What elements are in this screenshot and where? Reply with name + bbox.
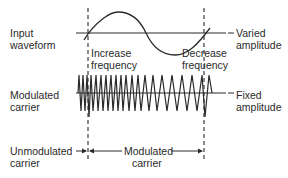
fixed-amplitude-label-1: Fixed: [236, 89, 262, 101]
varied-amplitude-label-1: Varied: [236, 27, 266, 39]
increase-frequency-label-2: frequency: [91, 59, 137, 71]
fixed-amplitude-label-2: amplitude: [236, 101, 282, 113]
modulated-carrier-label-1: Modulated: [10, 89, 59, 101]
modulated-carrier-label-2: carrier: [10, 101, 40, 113]
input-waveform-label-2: waveform: [10, 39, 56, 51]
unmodulated-carrier-label-1: Unmodulated: [10, 145, 72, 157]
modspan-right-arrowhead-icon: [198, 149, 203, 154]
decrease-frequency-label-1: Decrease: [182, 47, 227, 59]
input-waveform-label-1: Input: [10, 27, 33, 39]
varied-amplitude-label-2: amplitude: [236, 39, 282, 51]
modulated-span-label-2: carrier: [132, 157, 162, 169]
unmod-arrowhead-icon: [82, 149, 87, 154]
unmodulated-carrier-label-2: carrier: [10, 157, 40, 169]
decrease-frequency-label-2: frequency: [182, 59, 228, 71]
modulated-carrier-wave: [78, 75, 212, 117]
increase-frequency-label-1: Increase: [91, 47, 131, 59]
modspan-left-arrowhead-icon: [89, 149, 94, 154]
modulated-span-label-1: Modulated: [124, 145, 173, 157]
